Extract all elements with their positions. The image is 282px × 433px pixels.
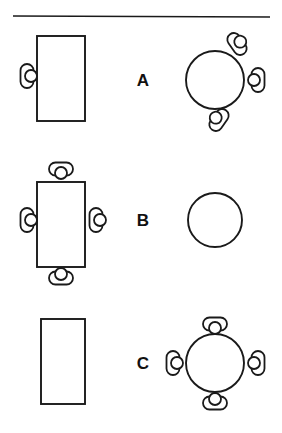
person-icon (21, 208, 38, 232)
person-head-icon (55, 268, 67, 280)
person-icon (248, 68, 265, 92)
arrangement-row-c: C (41, 318, 265, 410)
row-label-a: A (137, 71, 149, 90)
top-horizontal-rule (13, 16, 270, 17)
round-table (186, 334, 244, 392)
person-head-icon (25, 214, 37, 226)
person-head-icon (209, 322, 221, 334)
rectangular-table (37, 182, 85, 267)
row-label-c: C (137, 354, 149, 373)
person-icon (225, 28, 252, 57)
rectangular-table (41, 319, 85, 404)
person-icon (167, 351, 184, 375)
person-icon (49, 268, 73, 285)
row-label-b: B (137, 211, 149, 230)
person-head-icon (171, 357, 183, 369)
person-head-icon (25, 70, 37, 82)
person-icon (203, 393, 227, 410)
person-icon (49, 163, 73, 180)
person-head-icon (248, 74, 260, 86)
person-icon (90, 208, 107, 232)
arrangement-row-a: A (21, 28, 265, 133)
person-head-icon (248, 357, 260, 369)
rows-layer: ABC (21, 28, 265, 409)
person-head-icon (94, 214, 106, 226)
person-head-icon (55, 167, 67, 179)
person-icon (248, 351, 265, 375)
person-icon (203, 318, 227, 335)
person-icon (21, 64, 38, 88)
seating-diagram-svg: ABC (0, 0, 282, 433)
rectangular-table (37, 36, 85, 121)
round-table (188, 193, 242, 247)
person-head-icon (209, 393, 221, 405)
diagram-canvas: ABC (0, 0, 282, 433)
round-table (186, 51, 244, 109)
arrangement-row-b: B (21, 163, 243, 285)
